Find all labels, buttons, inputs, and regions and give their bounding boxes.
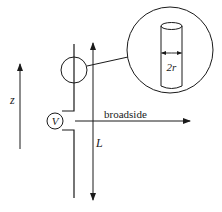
dipole-antenna-diagram: z V 2r L broadside — [0, 0, 222, 212]
z-axis-label: z — [9, 93, 15, 107]
antenna-wire — [62, 44, 74, 198]
radius-label: 2r — [167, 61, 178, 73]
length-label: L — [95, 136, 103, 150]
broadside-label: broadside — [104, 108, 147, 120]
magnified-detail-circle — [127, 7, 213, 93]
